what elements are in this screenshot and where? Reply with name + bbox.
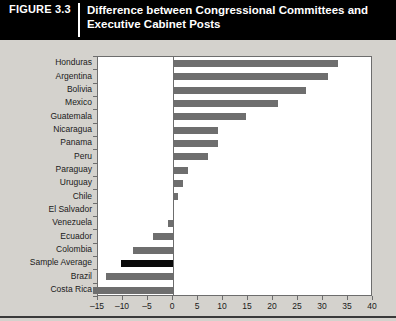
y-axis-tick [93, 109, 97, 110]
bar-ecuador [153, 233, 173, 240]
chart-area: HondurasArgentinaBoliviaMexicoGuatemalaN… [0, 40, 396, 321]
figure-number-block: FIGURE 3.3 [0, 0, 78, 40]
bar-mexico [173, 100, 278, 107]
x-axis-label: –5 [142, 301, 151, 311]
x-axis-tick [147, 296, 148, 300]
bar-row [98, 244, 371, 257]
figure-title-line-1: Difference between Congressional Committ… [87, 3, 368, 17]
bar-row [98, 257, 371, 270]
bar-row [98, 150, 371, 163]
bar-row [98, 57, 371, 70]
x-axis-tick [222, 296, 223, 300]
y-axis-tick [93, 83, 97, 84]
y-axis-tick [93, 229, 97, 230]
x-axis-label: 5 [195, 301, 200, 311]
x-axis-tick [347, 296, 348, 300]
bar-row [98, 190, 371, 203]
bar-colombia [133, 247, 173, 254]
category-label-costa-rica: Costa Rica [0, 282, 92, 297]
y-axis-tick [93, 203, 97, 204]
bar-sample-average [121, 260, 174, 267]
bar-venezuela [168, 220, 173, 227]
figure-number: 3.3 [55, 3, 71, 15]
x-axis-tick [297, 296, 298, 300]
bar-row [98, 124, 371, 137]
bar-argentina [173, 73, 328, 80]
x-axis-label: 40 [367, 301, 376, 311]
x-axis-tick [122, 296, 123, 300]
bar-row [98, 70, 371, 83]
y-axis-tick [93, 176, 97, 177]
x-axis-tick [247, 296, 248, 300]
bar-costa-rica [93, 287, 173, 294]
y-axis-tick [93, 163, 97, 164]
y-axis-tick [93, 216, 97, 217]
bar-panama [173, 140, 218, 147]
figure-title-line-2: Executive Cabinet Posts [87, 17, 368, 31]
x-axis-label: 15 [242, 301, 251, 311]
x-axis-label: 30 [317, 301, 326, 311]
bar-row [98, 270, 371, 283]
bar-row [98, 217, 371, 230]
bar-row [98, 110, 371, 123]
bar-guatemala [173, 113, 246, 120]
bar-row [98, 284, 371, 297]
figure-header: FIGURE 3.3 Difference between Congressio… [0, 0, 396, 40]
y-axis-tick [93, 136, 97, 137]
y-axis-tick [93, 149, 97, 150]
x-axis-label: –15 [90, 301, 104, 311]
x-axis-tick [97, 296, 98, 300]
y-axis-tick [93, 256, 97, 257]
y-axis-tick [93, 283, 97, 284]
x-axis-label: –10 [115, 301, 129, 311]
bar-row [98, 97, 371, 110]
figure-container: FIGURE 3.3 Difference between Congressio… [0, 0, 396, 321]
bar-peru [173, 153, 208, 160]
bar-row [98, 164, 371, 177]
y-axis-tick [93, 243, 97, 244]
bar-row [98, 84, 371, 97]
bar-row [98, 204, 371, 217]
bottom-rule [0, 316, 396, 318]
bar-brazil [106, 273, 174, 280]
y-axis-tick [93, 96, 97, 97]
x-axis-tick [172, 296, 173, 300]
y-axis-tick [93, 123, 97, 124]
bar-nicaragua [173, 127, 218, 134]
x-axis-tick [197, 296, 198, 300]
x-axis-tick [372, 296, 373, 300]
y-axis-tick [93, 56, 97, 57]
y-axis-tick [93, 69, 97, 70]
bar-row [98, 137, 371, 150]
bar-chile [173, 193, 178, 200]
y-axis-tick [93, 189, 97, 190]
page-title: Difference between Congressional Committ… [80, 0, 374, 40]
bar-paraguay [173, 167, 188, 174]
x-axis-label: 0 [170, 301, 175, 311]
x-axis: –15–10–50510152025303540 [97, 296, 372, 318]
bar-honduras [173, 60, 338, 67]
y-axis-tick [93, 269, 97, 270]
x-axis-tick [322, 296, 323, 300]
plot-frame [97, 56, 372, 296]
x-axis-label: 20 [267, 301, 276, 311]
figure-label: FIGURE [9, 3, 52, 15]
bar-row [98, 177, 371, 190]
bar-bolivia [173, 87, 306, 94]
x-axis-label: 10 [217, 301, 226, 311]
bar-uruguay [173, 180, 183, 187]
x-axis-tick [272, 296, 273, 300]
bar-el-salvador [173, 207, 174, 214]
bar-row [98, 230, 371, 243]
x-axis-label: 35 [342, 301, 351, 311]
x-axis-label: 25 [292, 301, 301, 311]
